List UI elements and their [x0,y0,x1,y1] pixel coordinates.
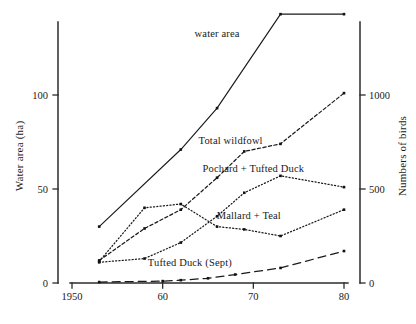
data-point-marker [279,143,282,146]
data-point-marker [98,225,101,228]
data-point-marker [243,228,246,231]
y-tick-label-right: 0 [369,278,374,289]
series-label-mallard-teal: Mallard + Teal [217,210,281,221]
data-point-marker [343,186,346,189]
series-water-area [98,13,345,228]
data-point-marker [180,279,183,282]
data-point-marker [180,241,183,244]
data-point-marker [243,150,246,153]
data-point-marker [143,227,146,230]
x-tick-label: 1950 [62,291,83,302]
x-tick-label: 80 [339,291,350,302]
data-point-marker [207,277,210,280]
x-tick-label: 60 [157,291,168,302]
data-point-marker [180,208,183,211]
data-point-marker [243,191,246,194]
data-point-marker [343,208,346,211]
y-tick-label-right: 500 [369,184,385,195]
y-axis-label-right: Numbers of birds [396,106,408,206]
y-tick-label-left: 100 [6,90,48,101]
data-point-marker [234,273,237,276]
series-label-total-wildfowl: Total wildfowl [199,135,263,146]
chart-axes [53,22,365,288]
y-tick-label-right: 1000 [369,90,390,101]
data-point-marker [98,281,101,284]
data-point-marker [343,250,346,253]
data-point-marker [279,13,282,16]
data-point-marker [279,267,282,270]
data-point-marker [216,107,219,110]
series-label-tufted-duck-sept: Tufted Duck (Sept) [148,257,232,268]
data-point-marker [343,13,346,16]
series-total-wildfowl [98,92,345,262]
data-point-marker [216,176,219,179]
data-point-marker [143,207,146,210]
chart-figure: Water area (ha) Numbers of birds 0501000… [0,0,416,324]
series-label-pochard-tufted-duck: Pochard + Tufted Duck [203,163,305,174]
series-label-water-area: water area [195,27,240,38]
y-tick-label-left: 0 [6,278,48,289]
data-point-marker [279,175,282,178]
x-tick-label: 70 [248,291,259,302]
y-tick-label-left: 50 [6,184,48,195]
data-point-marker [180,148,183,151]
data-point-marker [143,257,146,260]
data-point-marker [161,280,164,283]
chart-series [98,13,345,284]
data-point-marker [180,203,183,206]
data-point-marker [216,225,219,228]
data-point-marker [279,235,282,238]
data-point-marker [343,92,346,95]
data-point-marker [98,260,101,263]
